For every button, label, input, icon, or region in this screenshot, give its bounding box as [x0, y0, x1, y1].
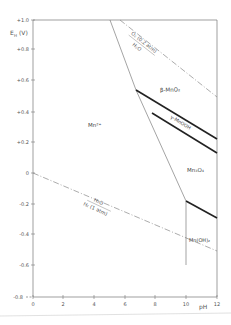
x-tick-label: 10: [183, 301, 189, 307]
page-edge: [0, 313, 231, 316]
y-axis-title-unit: (V): [19, 29, 28, 36]
y-axis-title-sub: H: [14, 33, 17, 38]
o2-annotation: O₂ (0.2 atm) H₂O: [124, 30, 159, 61]
y-tick-label: +1.0: [17, 17, 29, 23]
mn2-oxide-boundary: [136, 90, 186, 201]
x-tick-label: 4: [92, 301, 95, 307]
x-tick-label: 6: [123, 301, 126, 307]
region-label-mn3o4: Mn₃O₄: [187, 167, 205, 173]
y-tick-label: -0.6: [19, 262, 29, 268]
y-tick-label: -0.4: [19, 231, 29, 237]
y-tick-label: +0.4: [17, 109, 29, 115]
thin-boundaries: [110, 20, 186, 265]
y-tick-labels: +1.0 +0.8 +0.6 +0.4 +0.2 0 -0.2 -0.4 -0.…: [13, 17, 29, 300]
y-tick-label: +0.6: [17, 77, 29, 83]
region-label-mnoh2: Mn(OH)₂: [189, 237, 210, 243]
pourbaix-diagram: +1.0 +0.8 +0.6 +0.4 +0.2 0 -0.2 -0.4 -0.…: [0, 0, 231, 325]
beta-gamma-boundary: [136, 90, 217, 139]
x-tick-label: 12: [214, 301, 220, 307]
region-label-mn2: Mn²⁺: [88, 122, 101, 128]
y-tick-label: -0.8: [13, 294, 23, 300]
mn2-beta-boundary: [110, 20, 136, 90]
bold-boundaries: [136, 90, 217, 218]
x-tick-label: 0: [31, 301, 34, 307]
y-tick-label: +0.8: [17, 46, 29, 52]
axes: [26, 20, 217, 297]
x-tick-labels: 0 2 4 6 8 10 12: [31, 301, 220, 307]
y-tick-label: +0.2: [17, 139, 29, 145]
y-tick-label: 0: [26, 170, 29, 176]
y-axis-title: E H (V): [10, 29, 28, 38]
x-tick-label: 2: [61, 301, 64, 307]
x-tick-label: 8: [153, 301, 156, 307]
x-axis-title: pH: [199, 303, 207, 311]
region-label-beta-mno2: β-MnO₂: [160, 86, 180, 94]
y-tick-label: -0.2: [19, 201, 29, 207]
mn3o4-mnoh2-boundary: [186, 201, 217, 218]
